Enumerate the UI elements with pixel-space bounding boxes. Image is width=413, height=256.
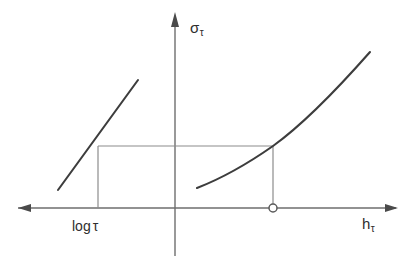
right-convex-curve xyxy=(197,52,370,188)
y-axis-label-subscript: τ xyxy=(199,27,203,38)
x-tick-label-tau-symbol: τ xyxy=(91,218,99,234)
diagram-svg xyxy=(0,0,413,256)
x-axis-right-arrowhead-icon xyxy=(385,204,398,212)
open-circle-marker xyxy=(269,204,277,212)
x-axis-label-subscript: τ xyxy=(370,223,374,234)
x-axis-left-arrowhead-icon xyxy=(18,204,31,212)
y-axis-up-arrowhead-icon xyxy=(171,12,179,27)
x-axis-label: hτ xyxy=(362,216,375,234)
y-axis-label-base: σ xyxy=(190,19,199,36)
y-axis-label: στ xyxy=(190,20,204,38)
figure-canvas: στ hτ logτ xyxy=(0,0,413,256)
x-axis-tick-label-log-tau: logτ xyxy=(72,218,98,234)
x-tick-label-base: log xyxy=(72,218,91,234)
